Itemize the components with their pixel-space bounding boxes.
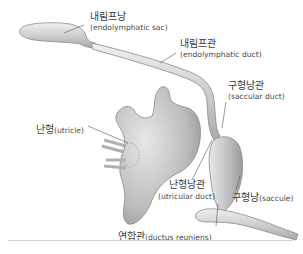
label-endolymphatic-duct: 내림프관 (endolymphatic duct) — [180, 39, 262, 59]
label-en: (utricular duct) — [158, 193, 215, 201]
label-utricular-duct: 난형낭관 (utricular duct) — [158, 180, 215, 201]
label-saccule: 구형낭(saccule) — [232, 188, 293, 204]
label-en: (utricle) — [54, 126, 84, 135]
label-endolymphatic-sac: 내림프낭 (endolymphatic sac) — [90, 12, 168, 32]
label-ko: 구형낭 — [232, 192, 259, 203]
label-ko: 난형 — [36, 124, 54, 135]
label-utricle: 난형(utricle) — [36, 120, 84, 136]
diagram-canvas: 내림프낭 (endolymphatic sac) 내림프관 (endolymph… — [0, 0, 303, 254]
label-en: (saccule) — [259, 194, 293, 203]
label-en: (saccular duct) — [228, 93, 285, 101]
endolymphatic-sac-shape — [20, 23, 97, 48]
label-ko: 내림프낭 — [90, 12, 168, 22]
label-ko: 내림프관 — [180, 39, 262, 49]
label-ko: 구형낭관 — [228, 81, 285, 91]
label-en: (endolymphatic sac) — [90, 24, 168, 32]
label-saccular-duct: 구형낭관 (saccular duct) — [228, 81, 285, 101]
utricle-shape — [102, 87, 201, 224]
label-ko: 난형낭관 — [158, 180, 215, 190]
bottom-divider — [8, 240, 293, 241]
label-en: (endolymphatic duct) — [180, 51, 262, 59]
